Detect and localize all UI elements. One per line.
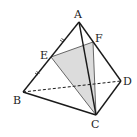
label-b: B: [13, 94, 21, 107]
label-e: E: [40, 49, 48, 62]
edge-cd: [96, 81, 121, 115]
label-a: A: [73, 8, 83, 21]
label-c: C: [91, 118, 99, 131]
tetrahedron-diagram: A B C D E F: [0, 0, 137, 137]
label-f: F: [95, 32, 103, 45]
label-d: D: [123, 75, 132, 88]
